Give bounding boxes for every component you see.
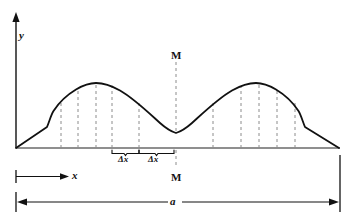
figure-container: y x a M M Δx Δx <box>0 0 349 224</box>
midline-label-top: M <box>171 50 181 61</box>
x-dimension-line <box>16 170 69 183</box>
x-axis-label: x <box>72 170 78 181</box>
delta-x-label-left: Δx <box>118 155 128 164</box>
ordinate-lines-left <box>61 83 139 148</box>
y-axis-label: y <box>19 30 24 41</box>
a-dimension-line <box>16 155 340 212</box>
total-width-label: a <box>170 196 176 207</box>
curve-path <box>16 83 339 148</box>
ordinate-lines-right <box>213 83 295 148</box>
diagram-canvas <box>0 0 349 224</box>
midline-label-bottom: M <box>171 172 181 183</box>
delta-x-label-right: Δx <box>148 155 158 164</box>
